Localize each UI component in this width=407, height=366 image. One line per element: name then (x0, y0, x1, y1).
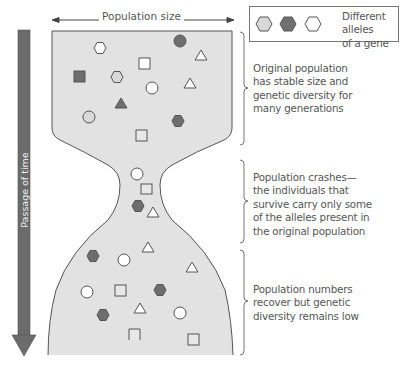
hexagon-icon (256, 17, 272, 31)
square-icon (188, 334, 199, 345)
circle-icon (81, 286, 93, 298)
circle-icon (146, 82, 158, 94)
legend-alleles (250, 7, 340, 41)
legend-text: Different alleles of a gene (342, 10, 398, 50)
population-size-label: Population size (99, 10, 184, 22)
circle-icon (174, 35, 186, 47)
annotation-crash: Population crashes— the individuals that… (253, 171, 372, 238)
annotation-recover: Population numbers recover but genetic d… (253, 283, 359, 323)
circle-icon (174, 307, 186, 319)
square-icon (141, 184, 152, 194)
hexagon-icon (305, 17, 321, 31)
square-icon (115, 285, 126, 296)
square-icon (139, 58, 150, 69)
hexagon-icon (97, 310, 109, 321)
hexagon-icon (280, 17, 296, 31)
braces (240, 32, 248, 355)
square-icon (74, 71, 85, 82)
hexagon-icon (94, 43, 106, 54)
hexagon-icon (132, 201, 144, 212)
circle-icon (131, 168, 143, 180)
hexagon-icon (111, 72, 123, 83)
hexagon-icon (154, 285, 166, 296)
hexagon-icon (172, 116, 184, 127)
square-icon (136, 130, 147, 141)
time-axis-label: Passage of time (19, 152, 30, 227)
hexagon-icon (87, 251, 99, 262)
circle-icon (83, 111, 95, 123)
square-icon (129, 329, 140, 340)
circle-icon (118, 254, 130, 266)
legend: Different alleles of a gene (249, 6, 399, 42)
annotation-original: Original population has stable size and … (253, 62, 352, 116)
